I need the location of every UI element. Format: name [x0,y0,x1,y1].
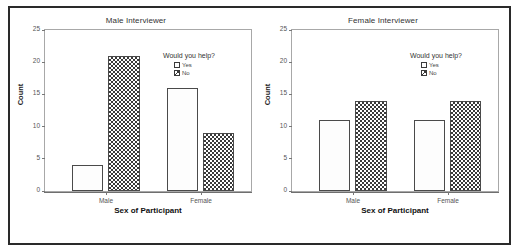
y-tick-label: 25 [280,25,287,32]
bar-female-no[interactable] [450,101,481,191]
x-tick-mark [201,192,202,195]
bar-male-no[interactable] [355,101,386,191]
legend-label-no: No [182,70,204,76]
legend-item-yes[interactable]: Yes [421,61,451,69]
bar-male-yes[interactable] [319,120,350,191]
x-axis-title: Sex of Participant [44,206,252,215]
legend-title: Would you help? [376,52,496,59]
figure-frame: Male Interviewer Count 0 5 10 15 [8,6,511,245]
x-tick-label: Male [323,197,383,204]
y-tick-label: 15 [33,89,40,96]
legend-title: Would you help? [129,52,249,59]
legend-swatch-no-icon [174,70,180,76]
y-tick-label: 20 [280,57,287,64]
legend: Would you help? Yes No [129,52,249,77]
y-tick-label: 0 [36,186,40,193]
x-axis-line [291,192,499,193]
chart-panel-male-interviewer: Male Interviewer Count 0 5 10 15 [14,12,258,241]
legend-item-no[interactable]: No [421,69,451,77]
x-tick-mark [353,192,354,195]
x-tick-label: Female [171,197,231,204]
legend-swatch-yes-icon [421,62,427,68]
y-axis-label: Count [16,65,25,125]
x-axis-title: Sex of Participant [291,206,499,215]
y-tick-label: 5 [36,154,40,161]
x-tick-mark [106,192,107,195]
x-axis-line [44,192,252,193]
legend-swatch-yes-icon [174,62,180,68]
y-tick-label: 25 [33,25,40,32]
y-axis-label: Count [263,65,272,125]
legend-swatch-no-icon [421,70,427,76]
legend-rows: Yes No [376,61,496,77]
panel-title: Male Interviewer [14,16,258,25]
bar-male-yes[interactable] [72,165,103,191]
chart-panel-female-interviewer: Female Interviewer Count 0 5 10 15 20 [261,12,505,241]
legend-item-yes[interactable]: Yes [174,61,204,69]
y-tick-label: 15 [280,89,287,96]
x-tick-label: Female [418,197,478,204]
legend-item-no[interactable]: No [174,69,204,77]
x-tick-label: Male [76,197,136,204]
y-tick-label: 20 [33,57,40,64]
legend: Would you help? Yes No [376,52,496,77]
y-tick-label: 5 [283,154,287,161]
y-tick-label: 10 [280,122,287,129]
plot-area: 0 5 10 15 20 25 [44,29,252,192]
bar-female-yes[interactable] [167,88,198,191]
legend-label-yes: Yes [182,62,204,68]
plot-area: 0 5 10 15 20 25 [291,29,499,192]
bar-female-yes[interactable] [414,120,445,191]
bar-female-no[interactable] [203,133,234,191]
legend-label-yes: Yes [429,62,451,68]
y-tick-label: 0 [283,186,287,193]
legend-label-no: No [429,70,451,76]
y-tick-label: 10 [33,122,40,129]
x-tick-mark [448,192,449,195]
legend-rows: Yes No [129,61,249,77]
panel-title: Female Interviewer [261,16,505,25]
